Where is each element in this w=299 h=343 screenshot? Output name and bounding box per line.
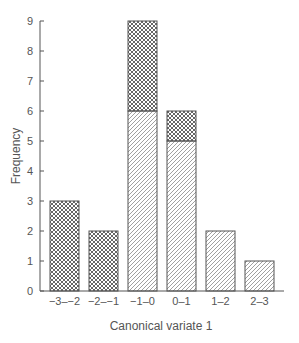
y-tick-label: 3 <box>27 195 33 207</box>
y-tick-label: 9 <box>27 15 33 27</box>
x-tick-label: −2–−1 <box>88 295 119 307</box>
y-axis-title: Frequency <box>9 128 23 185</box>
x-tick-label: 1–2 <box>211 295 229 307</box>
y-tick-label: 5 <box>27 135 33 147</box>
bar-segment <box>50 201 79 291</box>
y-tick-label: 0 <box>27 285 33 297</box>
y-tick-label: 4 <box>27 165 33 177</box>
y-tick-label: 8 <box>27 45 33 57</box>
bar-segment <box>167 111 196 141</box>
bars-group <box>50 21 274 291</box>
x-axis-title: Canonical variate 1 <box>110 319 213 333</box>
y-tick-label: 7 <box>27 75 33 87</box>
x-tick-label: −1–0 <box>130 295 155 307</box>
bar-segment <box>89 231 118 291</box>
y-tick-label: 6 <box>27 105 33 117</box>
bar-segment <box>245 261 274 291</box>
x-tick-label: 0–1 <box>172 295 190 307</box>
x-tick-label: 2–3 <box>250 295 268 307</box>
x-tick-label: −3–−2 <box>49 295 80 307</box>
bar-segment <box>128 21 157 111</box>
bar-segment <box>167 141 196 291</box>
histogram-chart: −3–−2−2–−1−1–00–11–22–30123456789 Canoni… <box>0 0 299 343</box>
bar-segment <box>128 111 157 291</box>
y-tick-label: 2 <box>27 225 33 237</box>
y-tick-label: 1 <box>27 255 33 267</box>
bar-segment <box>206 231 235 291</box>
